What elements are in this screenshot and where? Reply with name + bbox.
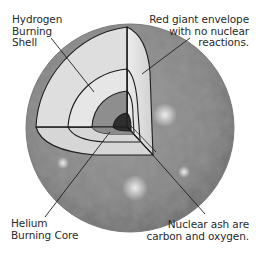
- label-nuclear-ash: Nuclear ash are carbon and oxygen.: [146, 219, 249, 242]
- label-red-giant-envelope: Red giant envelope with no nuclear react…: [149, 14, 249, 49]
- label-helium-burning-core: Helium Burning Core: [11, 218, 78, 241]
- red-giant-diagram: Hydrogen Burning Shell Red giant envelop…: [0, 0, 261, 257]
- label-hydrogen-burning-shell: Hydrogen Burning Shell: [12, 14, 62, 49]
